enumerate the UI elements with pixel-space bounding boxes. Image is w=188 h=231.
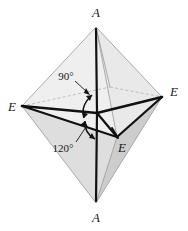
bond-axial-top (96, 29, 97, 113)
label-axial-bottom: A (91, 210, 100, 225)
axial-bond-axis (96, 29, 97, 201)
label-equatorial-front: E (117, 140, 126, 155)
label-axial-top: A (91, 5, 100, 20)
label-angle-120: 120° (53, 142, 74, 154)
trigonal-bipyramid-diagram: A A E E E 90° 120° (0, 0, 188, 231)
figure-container: A A E E E 90° 120° (0, 0, 188, 231)
label-equatorial-right: E (169, 84, 178, 99)
label-equatorial-left: E (7, 99, 16, 114)
bond-axial-bottom (96, 113, 97, 201)
label-angle-90: 90° (58, 70, 73, 82)
